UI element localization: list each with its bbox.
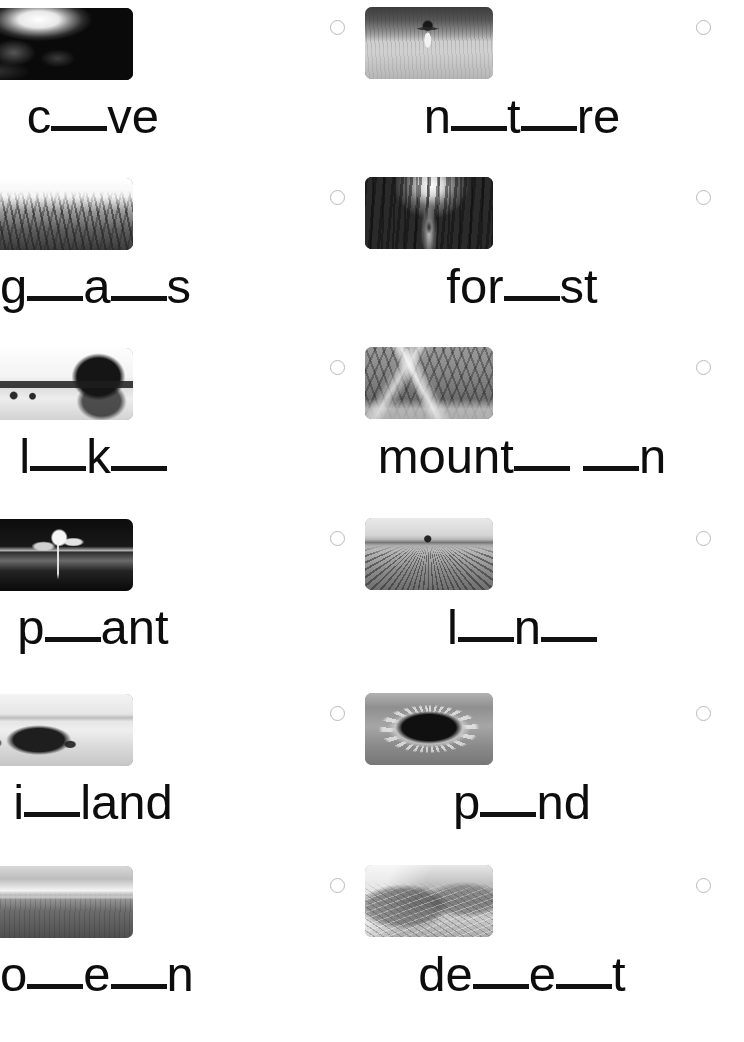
answer-blank[interactable]: [30, 422, 86, 471]
answer-blank[interactable]: [583, 422, 639, 471]
worksheet-row: oendeet: [0, 858, 744, 1028]
worksheet-row: cventre: [0, 0, 744, 170]
word-letters: mount: [378, 429, 514, 483]
worksheet-item-pond: pnd: [340, 686, 744, 856]
answer-blank[interactable]: [473, 940, 529, 989]
word-prompt-desert: deet: [340, 940, 744, 1005]
photo-layer: [365, 347, 493, 419]
land-photo: [365, 518, 493, 590]
island-photo: [0, 694, 133, 766]
photo-layer: [365, 693, 493, 765]
photo-layer: [365, 177, 493, 249]
option-bubble-desert[interactable]: [696, 878, 711, 893]
word-letters: l: [19, 429, 30, 483]
answer-blank[interactable]: [27, 252, 83, 301]
word-letters: t: [507, 89, 521, 143]
word-prompt-grass: gas: [0, 252, 340, 317]
cave-photo: [0, 8, 133, 80]
worksheet-item-cave: cve: [0, 0, 340, 170]
worksheet-item-lake: lk: [0, 340, 340, 510]
word-letters: for: [446, 259, 503, 313]
worksheet-page: cventregasforstlkmountnpantlnilandpndoen…: [0, 0, 744, 1042]
answer-blank[interactable]: [514, 422, 570, 471]
lake-photo: [0, 348, 133, 420]
word-prompt-lake: lk: [0, 422, 340, 487]
word-letters: p: [17, 600, 44, 654]
word-letters: l: [447, 600, 458, 654]
word-letters: e: [529, 947, 556, 1001]
word-letters: n: [167, 947, 194, 1001]
word-letters: i: [13, 775, 24, 829]
pond-photo: [365, 693, 493, 765]
worksheet-item-plant: pant: [0, 511, 340, 681]
answer-blank[interactable]: [45, 593, 101, 642]
word-prompt-island: iland: [0, 768, 340, 833]
worksheet-item-island: iland: [0, 686, 340, 856]
option-bubble-forest[interactable]: [696, 190, 711, 205]
word-letters: a: [83, 259, 110, 313]
answer-blank[interactable]: [541, 593, 597, 642]
word-letters: s: [167, 259, 192, 313]
answer-blank[interactable]: [111, 422, 167, 471]
word-letters: n: [639, 429, 666, 483]
worksheet-item-ocean: oen: [0, 858, 340, 1028]
option-bubble-nature[interactable]: [696, 20, 711, 35]
answer-blank[interactable]: [504, 252, 560, 301]
worksheet-row: lkmountn: [0, 340, 744, 510]
photo-layer: [365, 865, 493, 937]
word-letters: t: [612, 947, 626, 1001]
plant-photo: [0, 519, 133, 591]
word-letters: st: [560, 259, 598, 313]
grass-photo: [0, 178, 133, 250]
photo-layer: [0, 8, 133, 80]
worksheet-item-nature: ntre: [340, 0, 744, 170]
worksheet-item-forest: forst: [340, 170, 744, 340]
worksheet-item-desert: deet: [340, 858, 744, 1028]
word-letters: o: [0, 947, 27, 1001]
photo-layer: [365, 7, 493, 79]
worksheet-item-mountain: mountn: [340, 340, 744, 510]
worksheet-item-grass: gas: [0, 170, 340, 340]
option-bubble-land[interactable]: [696, 531, 711, 546]
word-letters: ve: [107, 89, 159, 143]
answer-blank[interactable]: [27, 940, 83, 989]
answer-blank[interactable]: [51, 82, 107, 131]
ocean-photo: [0, 866, 133, 938]
word-prompt-pond: pnd: [340, 768, 744, 833]
word-letters: p: [453, 775, 480, 829]
word-letters: c: [27, 89, 52, 143]
answer-blank[interactable]: [24, 768, 80, 817]
answer-blank[interactable]: [458, 593, 514, 642]
mountain-photo: [365, 347, 493, 419]
answer-blank[interactable]: [556, 940, 612, 989]
photo-layer: [0, 519, 133, 591]
worksheet-row: pantln: [0, 511, 744, 681]
word-letters: nd: [536, 775, 591, 829]
word-prompt-ocean: oen: [0, 940, 340, 1005]
worksheet-row: ilandpnd: [0, 686, 744, 856]
photo-layer: [365, 518, 493, 590]
word-letters: de: [418, 947, 473, 1001]
word-letters: ant: [101, 600, 169, 654]
word-letters: n: [424, 89, 451, 143]
answer-blank[interactable]: [111, 252, 167, 301]
word-letters: n: [514, 600, 541, 654]
word-prompt-land: ln: [340, 593, 744, 658]
option-bubble-mountain[interactable]: [696, 360, 711, 375]
photo-layer: [0, 866, 133, 938]
answer-blank[interactable]: [111, 940, 167, 989]
word-prompt-mountain: mountn: [340, 422, 744, 487]
answer-blank[interactable]: [480, 768, 536, 817]
desert-photo: [365, 865, 493, 937]
word-prompt-plant: pant: [0, 593, 340, 658]
worksheet-row: gasforst: [0, 170, 744, 340]
word-letters: g: [0, 259, 27, 313]
answer-blank[interactable]: [521, 82, 577, 131]
worksheet-item-land: ln: [340, 511, 744, 681]
option-bubble-pond[interactable]: [696, 706, 711, 721]
photo-layer: [0, 348, 133, 420]
word-letters: re: [577, 89, 621, 143]
answer-blank[interactable]: [451, 82, 507, 131]
photo-layer: [0, 178, 133, 250]
word-letters: land: [80, 775, 173, 829]
